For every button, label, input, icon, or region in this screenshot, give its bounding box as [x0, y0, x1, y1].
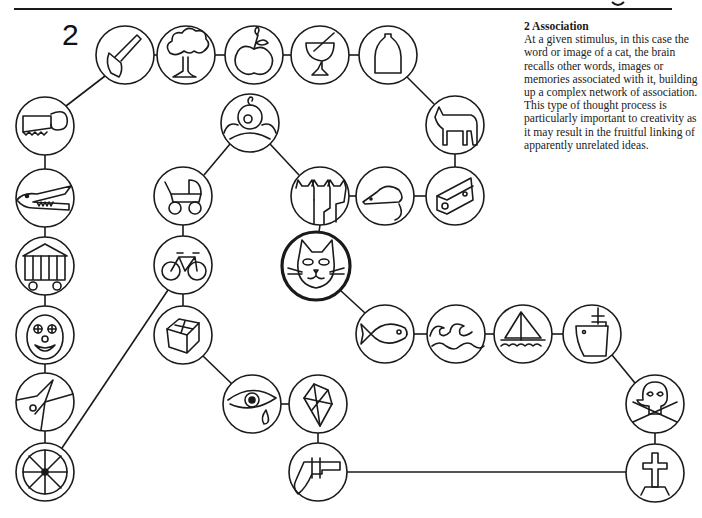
node-diamond: [289, 375, 347, 433]
caption-title: 2 Association: [524, 20, 700, 33]
node-tree: [157, 26, 215, 84]
caption: 2 Association At a given stimulus, in th…: [524, 20, 700, 152]
node-gun: [289, 443, 347, 501]
node-ship: [563, 305, 621, 363]
node-mouse: [356, 167, 414, 225]
node-cats: [291, 167, 349, 225]
node-sailboat: [494, 305, 552, 363]
node-grave: [626, 444, 684, 502]
node-pram: [154, 167, 212, 225]
node-fish: [356, 305, 414, 363]
node-crocodile: [16, 169, 74, 227]
node-clown: [16, 306, 74, 364]
wheel-icon: [23, 450, 67, 494]
node-cheese: [426, 167, 484, 225]
node-box: [154, 306, 212, 364]
node-bottle: [359, 26, 417, 84]
node-wheel: [16, 443, 74, 501]
heading-descender-fragment: [612, 2, 624, 5]
node-apple: [225, 26, 283, 84]
node-bicycle: [154, 236, 212, 294]
node-acrobat: [16, 373, 74, 431]
node-cow: [426, 96, 484, 154]
node-saw: [16, 97, 74, 155]
node-axe: [96, 26, 154, 84]
node-waves: [427, 305, 485, 363]
node-eye: [223, 375, 281, 433]
caption-body: At a given stimulus, in this case the wo…: [524, 33, 698, 152]
node-baby: [221, 94, 279, 152]
node-skull: [626, 375, 684, 433]
node-wagon: [16, 237, 74, 295]
node-cat-stimulus: [282, 232, 350, 300]
figure-number: 2: [62, 18, 79, 52]
node-glass: [291, 26, 349, 84]
